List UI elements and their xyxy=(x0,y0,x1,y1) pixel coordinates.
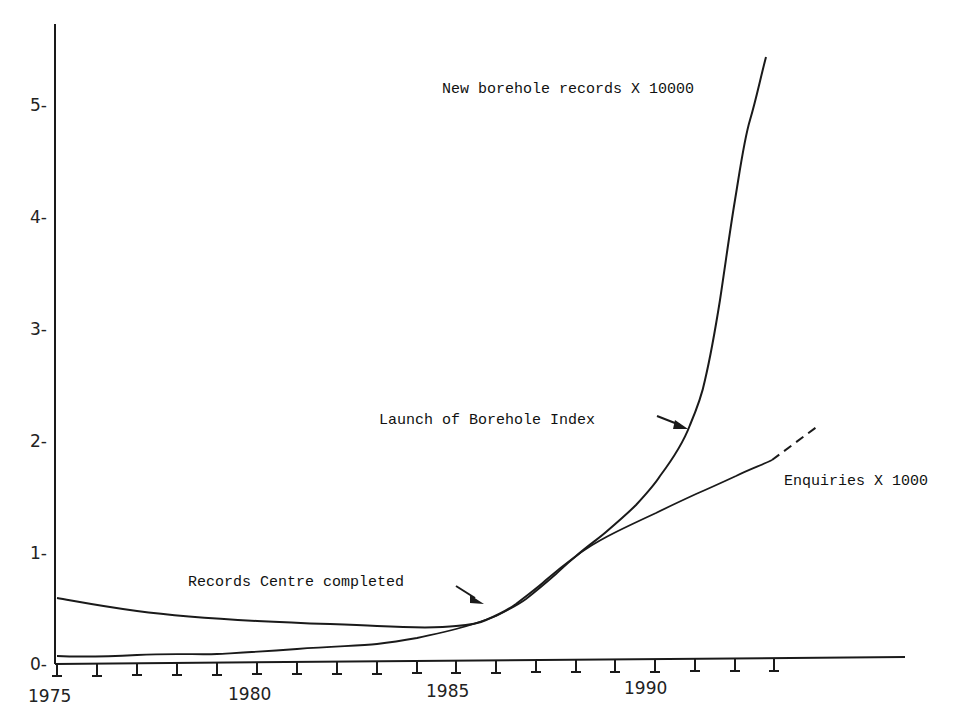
y-tick-0: 0- xyxy=(30,654,47,674)
label-records-centre-completed: Records Centre completed xyxy=(188,574,404,591)
series-enquiries-projection xyxy=(772,426,818,460)
y-tick-1: 1- xyxy=(30,543,47,563)
label-enquiries: Enquiries X 1000 xyxy=(784,473,928,490)
series-borehole-records xyxy=(57,57,766,628)
label-launch-borehole-index: Launch of Borehole Index xyxy=(379,412,595,429)
x-label-1975: 1975 xyxy=(28,686,71,706)
y-tick-4: 4- xyxy=(30,207,47,227)
line-chart: 0- 1- 2- 3- 4- 5- 1975 1980 1985 1990 xyxy=(0,0,973,722)
label-new-borehole-records: New borehole records X 10000 xyxy=(442,81,694,98)
x-label-1990: 1990 xyxy=(624,678,667,698)
x-axis-labels: 1975 1980 1985 1990 xyxy=(28,678,667,706)
y-tick-5: 5- xyxy=(30,95,47,115)
y-axis-ticks: 0- 1- 2- 3- 4- 5- xyxy=(30,95,47,674)
y-tick-3: 3- xyxy=(30,319,47,339)
arrow-launch-borehole-index xyxy=(657,416,688,429)
y-tick-2: 2- xyxy=(30,431,47,451)
x-label-1980: 1980 xyxy=(228,684,271,704)
arrow-records-centre-completed xyxy=(456,586,484,604)
x-axis xyxy=(55,657,905,664)
x-label-1985: 1985 xyxy=(426,681,469,701)
